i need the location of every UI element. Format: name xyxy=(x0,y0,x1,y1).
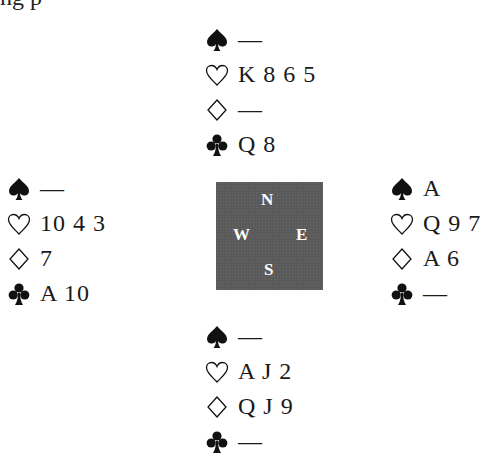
club-icon xyxy=(6,281,32,307)
west-hearts: 10 4 3 xyxy=(40,206,106,241)
club-icon xyxy=(204,132,230,158)
heart-icon xyxy=(204,359,230,385)
west-clubs-row: A 10 xyxy=(6,276,106,311)
south-hand: — A J 2 Q J 9 — xyxy=(204,319,294,459)
west-clubs: A 10 xyxy=(40,276,90,311)
club-icon xyxy=(389,281,415,307)
west-diamonds: 7 xyxy=(40,241,53,276)
south-spades-row: — xyxy=(204,319,294,354)
north-diamonds-row: — xyxy=(204,92,316,127)
south-hearts: A J 2 xyxy=(238,354,292,389)
south-diamonds-row: Q J 9 xyxy=(204,389,294,424)
east-hand: A Q 9 7 A 6 — xyxy=(389,171,481,311)
diamond-icon xyxy=(389,246,415,272)
east-clubs-row: — xyxy=(389,276,481,311)
spade-icon xyxy=(204,324,230,350)
compass-east: E xyxy=(296,225,307,245)
west-hearts-row: 10 4 3 xyxy=(6,206,106,241)
north-hand: — K 8 6 5 — Q 8 xyxy=(204,22,316,162)
club-icon xyxy=(204,429,230,455)
cutoff-text: ng p xyxy=(0,0,42,11)
heart-icon xyxy=(389,211,415,237)
north-hearts-row: K 8 6 5 xyxy=(204,57,316,92)
south-hearts-row: A J 2 xyxy=(204,354,294,389)
compass-table: N W E S xyxy=(216,182,323,290)
east-hearts: Q 9 7 xyxy=(423,206,481,241)
north-clubs: Q 8 xyxy=(238,127,276,162)
heart-icon xyxy=(6,211,32,237)
east-hearts-row: Q 9 7 xyxy=(389,206,481,241)
east-diamonds-row: A 6 xyxy=(389,241,481,276)
west-hand: — 10 4 3 7 A 10 xyxy=(6,171,106,311)
south-spades: — xyxy=(238,319,263,354)
compass-north: N xyxy=(261,190,273,210)
south-clubs-row: — xyxy=(204,424,294,459)
north-clubs-row: Q 8 xyxy=(204,127,316,162)
north-spades-row: — xyxy=(204,22,316,57)
compass-south: S xyxy=(264,260,273,280)
diamond-icon xyxy=(204,97,230,123)
spade-icon xyxy=(6,176,32,202)
west-spades-row: — xyxy=(6,171,106,206)
spade-icon xyxy=(204,27,230,53)
east-spades: A xyxy=(423,171,441,206)
diamond-icon xyxy=(204,394,230,420)
east-spades-row: A xyxy=(389,171,481,206)
west-spades: — xyxy=(40,171,65,206)
east-clubs: — xyxy=(423,276,448,311)
north-hearts: K 8 6 5 xyxy=(238,57,316,92)
south-diamonds: Q J 9 xyxy=(238,389,294,424)
south-clubs: — xyxy=(238,424,263,459)
heart-icon xyxy=(204,62,230,88)
west-diamonds-row: 7 xyxy=(6,241,106,276)
north-spades: — xyxy=(238,22,263,57)
north-diamonds: — xyxy=(238,92,263,127)
diamond-icon xyxy=(6,246,32,272)
east-diamonds: A 6 xyxy=(423,241,460,276)
spade-icon xyxy=(389,176,415,202)
compass-west: W xyxy=(233,225,250,245)
